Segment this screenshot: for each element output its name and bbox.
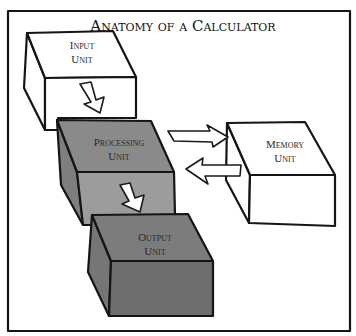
input-unit-label-line1: Input — [70, 39, 95, 51]
diagram-title: Anatomy of a Calculator — [89, 17, 276, 35]
calculator-anatomy-diagram: Anatomy of a Calculator Input Unit Proce… — [0, 0, 356, 336]
input-unit-label-line2: Unit — [71, 53, 92, 65]
output-unit-box: Output Unit — [88, 214, 213, 316]
processing-unit-label-line1: Processing — [94, 136, 145, 148]
processing-unit-box: Processing Unit — [57, 120, 175, 225]
processing-unit-label-line2: Unit — [108, 150, 129, 162]
input-unit-box: Input Unit — [24, 31, 136, 130]
memory-unit-label-line1: Memory — [266, 138, 304, 150]
output-unit-label-line2: Unit — [144, 245, 165, 257]
output-unit-label-line1: Output — [138, 231, 172, 243]
memory-unit-label-line2: Unit — [274, 152, 295, 164]
